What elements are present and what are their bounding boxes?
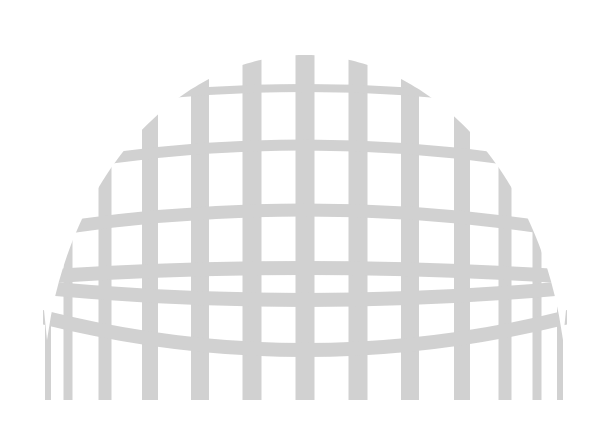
grid-vertical-bar	[296, 0, 315, 400]
grid-vertical-bar	[64, 0, 73, 400]
grid-vertical-bar	[45, 0, 51, 400]
grid-vertical-bar	[557, 0, 563, 400]
grid-vertical-bar	[349, 0, 368, 400]
grid-vertical-bar	[499, 0, 512, 400]
grid-dome-graphic	[0, 0, 600, 423]
grid-vertical-bar	[243, 0, 262, 400]
grid-vertical-bar	[533, 0, 542, 400]
grid-dome-icon	[0, 0, 600, 423]
grid-vertical-bar	[99, 0, 112, 400]
